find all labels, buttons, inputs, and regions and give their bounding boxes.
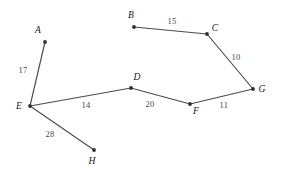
graph-vertex-d	[129, 86, 133, 90]
edge-weight-c-g: 10	[231, 53, 240, 62]
edge-weight-f-g: 11	[220, 101, 229, 110]
graph-edge-a-e	[30, 42, 45, 106]
edge-weight-e-d: 14	[81, 101, 90, 110]
vertex-label-b: B	[128, 11, 134, 21]
graph-vertex-h	[92, 148, 96, 152]
graph-vertex-g	[251, 87, 255, 91]
vertex-label-d: D	[133, 73, 140, 83]
edge-weight-d-f: 20	[145, 100, 154, 109]
graph-vertex-b	[132, 25, 136, 29]
vertex-label-g: G	[258, 85, 265, 95]
graph-vertex-c	[205, 32, 209, 36]
graph-vertex-e	[28, 104, 32, 108]
edge-weight-b-c: 15	[167, 17, 176, 26]
graph-edge-b-c	[134, 27, 207, 34]
vertex-label-e: E	[16, 102, 22, 112]
graph-edge-d-f	[131, 88, 190, 104]
edge-weight-a-e: 17	[18, 66, 27, 75]
weighted-graph-figure: 17151014201128 ABCDEFGH	[0, 0, 282, 179]
vertex-label-f: F	[193, 107, 199, 117]
vertex-label-h: H	[88, 157, 95, 167]
vertex-label-a: A	[35, 26, 41, 36]
vertex-label-c: C	[212, 24, 219, 34]
graph-vertex-a	[43, 40, 47, 44]
graph-edge-c-g	[207, 34, 253, 89]
graph-vertex-f	[188, 102, 192, 106]
graph-edge-e-h	[30, 106, 94, 150]
graph-edges-group	[30, 27, 253, 150]
graph-vertices-group	[28, 25, 255, 152]
graph-canvas	[0, 0, 282, 179]
edge-weight-e-h: 28	[45, 130, 54, 139]
